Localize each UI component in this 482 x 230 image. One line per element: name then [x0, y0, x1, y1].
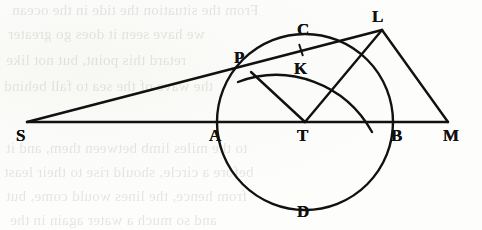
point-label-K: K	[294, 60, 307, 77]
upper-arc-through-C	[238, 75, 372, 132]
point-label-L: L	[372, 8, 383, 25]
segment-TP	[251, 72, 305, 122]
diagram-upper-arc	[238, 75, 372, 132]
point-label-P: P	[234, 49, 244, 66]
point-label-S: S	[16, 127, 25, 144]
point-label-B: B	[391, 127, 402, 144]
point-label-C: C	[297, 21, 309, 38]
diagram-lines	[27, 30, 448, 122]
point-label-T: T	[297, 127, 308, 144]
diagram-canvas	[0, 0, 482, 230]
point-label-M: M	[443, 127, 459, 144]
point-label-D: D	[297, 203, 309, 220]
segment-SL	[27, 30, 382, 122]
point-label-A: A	[209, 127, 221, 144]
geometry-figure-page: From the situation the tide in the ocean…	[0, 0, 482, 230]
